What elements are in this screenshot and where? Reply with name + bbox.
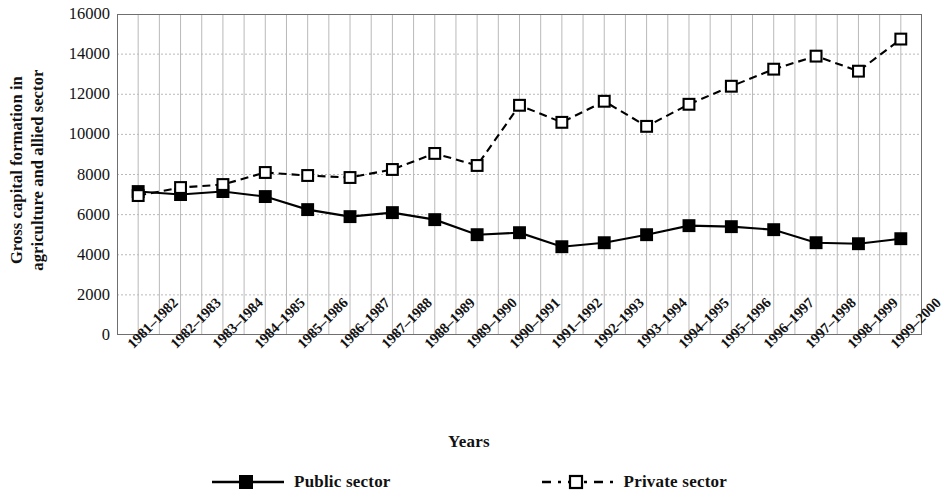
y-axis-tick-label: 2000 [77, 285, 110, 305]
data-point-marker [218, 179, 229, 190]
data-point-marker [387, 207, 398, 218]
data-point-marker [853, 238, 864, 249]
data-point-marker [684, 220, 695, 231]
data-point-marker [345, 172, 356, 183]
data-point-marker [726, 221, 737, 232]
plot-area [117, 14, 922, 335]
data-point-marker [684, 99, 695, 110]
data-point-marker [302, 170, 313, 181]
data-point-marker [556, 117, 567, 128]
y-axis-tick-label: 4000 [77, 245, 110, 265]
data-point-marker [133, 190, 144, 201]
y-axis-tick-labels: 0200040006000800010000120001400016000 [56, 0, 114, 350]
y-axis-tick-label: 14000 [69, 44, 110, 64]
data-point-marker [599, 96, 610, 107]
data-point-marker [472, 160, 483, 171]
y-axis-tick-label: 10000 [69, 124, 110, 144]
data-point-marker [429, 148, 440, 159]
data-point-marker [895, 233, 906, 244]
data-point-marker [429, 214, 440, 225]
legend-marker-filled-square-icon [211, 473, 285, 491]
data-point-marker [175, 182, 186, 193]
data-point-marker [387, 164, 398, 175]
data-point-marker [345, 211, 356, 222]
data-point-marker [895, 34, 906, 45]
data-point-marker [514, 100, 525, 111]
y-axis-tick-label: 12000 [69, 84, 110, 104]
data-point-marker [641, 121, 652, 132]
plot-svg [117, 14, 922, 335]
legend-label-public-sector: Public sector [294, 472, 391, 492]
data-point-marker [472, 229, 483, 240]
y-axis-tick-label: 8000 [77, 165, 110, 185]
data-point-marker [726, 81, 737, 92]
data-point-marker [768, 64, 779, 75]
data-point-marker [599, 237, 610, 248]
data-point-marker [811, 237, 822, 248]
data-point-marker [260, 167, 271, 178]
data-point-marker [302, 204, 313, 215]
y-axis-title: Gross capital formation in agriculture a… [0, 0, 56, 340]
data-point-marker [768, 224, 779, 235]
x-axis-tick-labels: 1981–19821982–19831983–19841984–19851985… [0, 336, 938, 432]
data-point-marker [260, 191, 271, 202]
legend-item-private-sector: Private sector [541, 472, 727, 492]
y-axis-title-line-1: Gross capital formation in [7, 69, 28, 270]
chart-legend: Public sector Private sector [0, 466, 938, 498]
data-point-marker [514, 227, 525, 238]
data-point-marker [641, 229, 652, 240]
y-axis-title-line-2: agriculture and allied sector [28, 69, 49, 270]
y-axis-tick-label: 6000 [77, 205, 110, 225]
y-axis-tick-label: 16000 [69, 4, 110, 24]
data-point-marker [556, 241, 567, 252]
legend-item-public-sector: Public sector [211, 472, 391, 492]
legend-marker-open-square-icon [541, 473, 615, 491]
x-axis-title: Years [0, 432, 938, 452]
legend-label-private-sector: Private sector [624, 472, 727, 492]
data-point-marker [811, 51, 822, 62]
data-point-marker [853, 66, 864, 77]
